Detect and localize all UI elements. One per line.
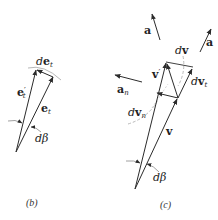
label-a-left: a — [144, 24, 151, 37]
caption-b: (b) — [26, 197, 38, 209]
vector-dv-n — [157, 93, 178, 98]
vector-dv — [167, 64, 178, 98]
label-dbeta-b: dβ — [35, 132, 48, 145]
vector-de-t — [37, 70, 53, 77]
label-de-t: det — [36, 55, 53, 69]
figure-c: a a dv v′ dvt an dvn v dβ (c) — [115, 14, 213, 211]
figure-b: det e′t et dβ (b) — [8, 55, 61, 209]
label-dv-n: dvn — [128, 106, 146, 120]
label-e-t: et — [41, 102, 51, 116]
arrow-a-n — [115, 75, 142, 82]
rect-top-edge — [166, 62, 193, 67]
label-e-t-prime: e′t — [17, 85, 26, 100]
angle-arc-left-c — [126, 161, 140, 163]
kinematics-diagram: det e′t et dβ (b) — [0, 0, 218, 220]
arc-dv-c — [178, 56, 184, 86]
label-dv-t: dvt — [191, 75, 207, 89]
arrow-a-left — [152, 14, 160, 40]
label-v: v — [165, 125, 173, 138]
label-a-n: an — [117, 83, 129, 97]
vector-dv-t — [178, 69, 192, 98]
label-dbeta-c: dβ — [153, 171, 166, 184]
label-v-prime: v′ — [151, 67, 160, 81]
label-dv: dv — [175, 44, 189, 57]
caption-c: (c) — [160, 199, 172, 211]
vector-e-t-prime — [16, 70, 36, 152]
label-a-right: a — [206, 36, 213, 49]
angle-arc-left-b — [8, 120, 22, 123]
